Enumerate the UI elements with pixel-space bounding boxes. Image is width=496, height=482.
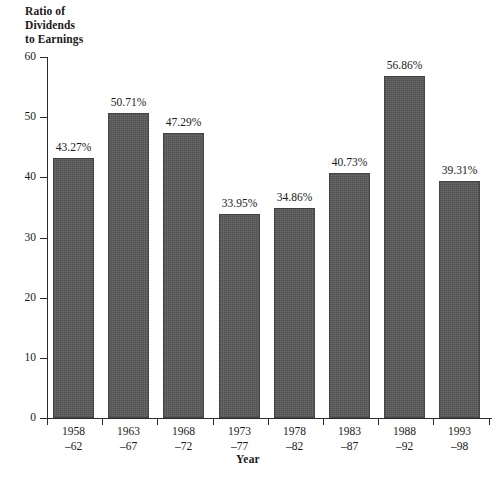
category-label-line-1: 1993 bbox=[448, 425, 471, 437]
category-label-line-1: 1983 bbox=[338, 425, 361, 437]
category-label-line-2: –82 bbox=[265, 439, 325, 454]
x-axis-category-label: 1958–62 bbox=[44, 424, 104, 453]
y-axis-tick-label: 0 bbox=[2, 412, 36, 424]
y-axis-tick-label: 20 bbox=[2, 292, 36, 304]
category-label-line-2: –62 bbox=[44, 439, 104, 454]
bar[interactable] bbox=[163, 133, 204, 418]
bar[interactable] bbox=[439, 181, 480, 418]
y-axis-tick bbox=[40, 358, 48, 359]
bar-value-label: 47.29% bbox=[154, 116, 214, 128]
x-axis-category-label: 1973–77 bbox=[210, 424, 270, 453]
plot-area: 0102030405060 43.27%50.71%47.29%33.95%34… bbox=[0, 0, 496, 482]
x-axis-title: Year bbox=[0, 453, 496, 465]
y-axis-tick-label: 60 bbox=[2, 51, 36, 63]
y-axis-tick-label: 30 bbox=[2, 232, 36, 244]
bar-value-label: 39.31% bbox=[430, 164, 490, 176]
x-axis-line bbox=[41, 418, 492, 419]
bar[interactable] bbox=[274, 208, 315, 418]
category-label-line-2: –77 bbox=[210, 439, 270, 454]
bar-value-label: 50.71% bbox=[99, 96, 159, 108]
category-label-line-1: 1978 bbox=[283, 425, 306, 437]
x-axis-category-label: 1993–98 bbox=[430, 424, 490, 453]
bar[interactable] bbox=[329, 173, 370, 418]
bar[interactable] bbox=[219, 214, 260, 418]
category-label-line-1: 1973 bbox=[228, 425, 251, 437]
y-axis-tick bbox=[40, 117, 48, 118]
bar-value-label: 33.95% bbox=[210, 197, 270, 209]
y-axis-tick-label: 10 bbox=[2, 352, 36, 364]
y-axis-tick-label: 50 bbox=[2, 111, 36, 123]
x-axis-category-label: 1983–87 bbox=[320, 424, 380, 453]
y-axis-tick bbox=[40, 298, 48, 299]
y-axis-tick bbox=[40, 57, 48, 58]
category-label-line-1: 1988 bbox=[393, 425, 416, 437]
category-label-line-1: 1958 bbox=[62, 425, 85, 437]
bar-value-label: 34.86% bbox=[265, 191, 325, 203]
bar-value-label: 43.27% bbox=[44, 141, 104, 153]
y-axis-tick-label: 40 bbox=[2, 171, 36, 183]
category-label-line-2: –67 bbox=[99, 439, 159, 454]
bar[interactable] bbox=[384, 76, 425, 418]
category-label-line-2: –87 bbox=[320, 439, 380, 454]
x-axis-category-label: 1978–82 bbox=[265, 424, 325, 453]
x-axis-category-label: 1988–92 bbox=[375, 424, 435, 453]
bar-chart-figure: Ratio of Dividends to Earnings 010203040… bbox=[0, 0, 496, 482]
bar-value-label: 40.73% bbox=[320, 156, 380, 168]
y-axis-tick bbox=[40, 238, 48, 239]
category-label-line-2: –98 bbox=[430, 439, 490, 454]
category-label-line-1: 1968 bbox=[172, 425, 195, 437]
x-axis-category-label: 1968–72 bbox=[154, 424, 214, 453]
y-axis-tick bbox=[40, 177, 48, 178]
category-label-line-1: 1963 bbox=[117, 425, 140, 437]
bar[interactable] bbox=[108, 113, 149, 418]
category-label-line-2: –92 bbox=[375, 439, 435, 454]
bar-value-label: 56.86% bbox=[375, 59, 435, 71]
category-label-line-2: –72 bbox=[154, 439, 214, 454]
x-axis-category-label: 1963–67 bbox=[99, 424, 159, 453]
bar[interactable] bbox=[53, 158, 94, 418]
